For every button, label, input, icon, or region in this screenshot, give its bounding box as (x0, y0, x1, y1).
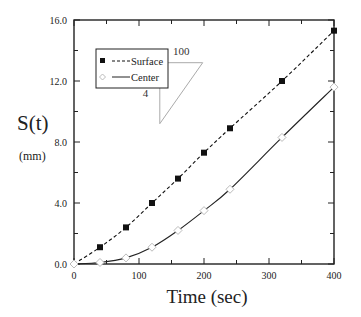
x-tick-label: 200 (197, 270, 212, 281)
legend: Surface Center (96, 49, 168, 88)
x-tick-label: 300 (262, 270, 277, 281)
y-tick-label: 8.0 (55, 137, 68, 148)
filled-square-marker (123, 224, 129, 230)
chart: 01002003004000.04.08.012.016.0 1004 Surf… (0, 0, 361, 317)
open-diamond-marker (96, 258, 104, 266)
y-tick-label: 4.0 (55, 198, 68, 209)
filled-square-marker (97, 244, 103, 250)
axis-ticks: 01002003004000.04.08.012.016.0 (50, 15, 342, 282)
filled-square-marker (175, 176, 181, 182)
filled-square-marker (279, 78, 285, 84)
x-tick-label: 100 (132, 270, 147, 281)
open-diamond-marker (122, 254, 130, 262)
x-axis-label: Time (sec) (166, 286, 247, 308)
y-tick-label: 12.0 (50, 76, 68, 87)
x-tick-label: 0 (72, 270, 77, 281)
legend-label-center: Center (131, 72, 159, 83)
open-diamond-marker (70, 260, 78, 268)
filled-square-marker (227, 125, 233, 131)
chart-svg: 01002003004000.04.08.012.016.0 1004 Surf… (0, 0, 361, 317)
triangle-run-label: 100 (173, 45, 190, 57)
y-axis-label: S(t) (17, 111, 49, 135)
y-tick-label: 16.0 (50, 15, 68, 26)
x-tick-label: 400 (327, 270, 342, 281)
filled-square-marker (149, 200, 155, 206)
series-line-center (74, 87, 334, 264)
legend-label-surface: Surface (131, 56, 163, 67)
open-diamond-marker (148, 243, 156, 251)
y-tick-label: 0.0 (55, 259, 68, 270)
filled-square-marker (331, 28, 337, 34)
filled-square-marker (201, 150, 207, 156)
open-diamond-marker (174, 226, 182, 234)
y-axis-unit-label: (mm) (19, 149, 46, 163)
triangle-rise-label: 4 (143, 87, 149, 99)
filled-square-marker-icon (100, 58, 105, 63)
